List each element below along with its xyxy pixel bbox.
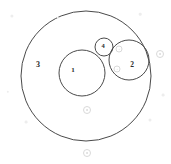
circle-packing-figure: 3124 bbox=[0, 0, 171, 164]
circle-label-1: 1 bbox=[71, 67, 75, 74]
paper-speck bbox=[162, 94, 165, 97]
watermark-mark bbox=[83, 106, 91, 114]
circle-1 bbox=[59, 50, 105, 96]
circle-label-2: 2 bbox=[130, 61, 134, 69]
circle-3 bbox=[21, 11, 151, 141]
watermark-mark bbox=[156, 50, 164, 58]
paper-speck bbox=[25, 121, 28, 124]
watermark-mark bbox=[116, 46, 123, 53]
circle-label-3: 3 bbox=[36, 61, 40, 69]
watermark-mark bbox=[83, 149, 91, 157]
circle-label-4: 4 bbox=[101, 43, 104, 50]
circles-group bbox=[21, 11, 151, 141]
figure-canvas bbox=[0, 0, 171, 164]
watermark-mark bbox=[114, 66, 121, 73]
paper-speck bbox=[139, 13, 142, 16]
paper-speck bbox=[149, 119, 152, 122]
circle-2 bbox=[109, 40, 149, 80]
